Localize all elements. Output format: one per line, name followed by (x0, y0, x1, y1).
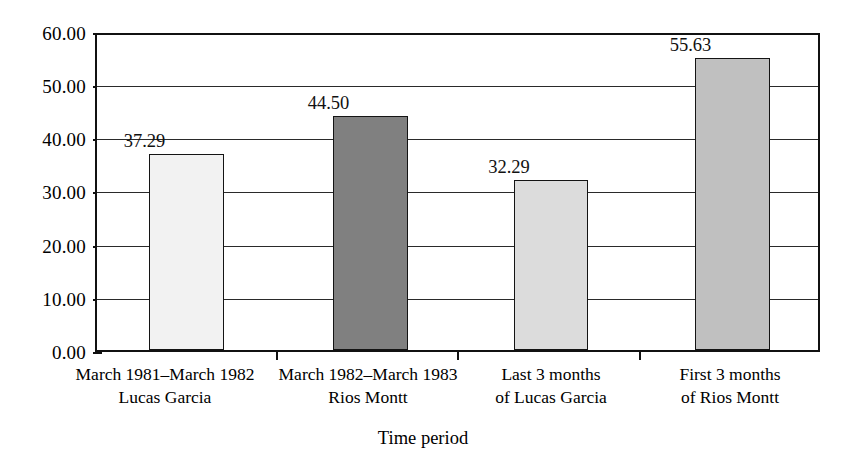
bar-value-label-2: 44.50 (291, 94, 366, 113)
x-category-label-3-line1: Last 3 months (501, 364, 600, 384)
y-tick-label-40: 40.00 (2, 130, 86, 149)
y-tick-label-30: 30.00 (2, 183, 86, 202)
x-category-label-3-line2: of Lucas Garcia (471, 386, 631, 409)
x-category-label-4: First 3 months of Rios Montt (650, 363, 810, 409)
x-category-label-1: March 1981–March 1982 Lucas Garcia (55, 363, 275, 409)
y-tick-label-0: 0.00 (2, 343, 86, 362)
y-tick-label-60: 60.00 (2, 24, 86, 43)
bar-last-3-months-of-lucas-garcia[interactable] (514, 180, 588, 350)
bar-value-label-1: 37.29 (107, 132, 182, 151)
x-category-label-3: Last 3 months of Lucas Garcia (471, 363, 631, 409)
x-category-label-2: March 1982–March 1983 Rios Montt (258, 363, 478, 409)
x-axis-title: Time period (0, 428, 846, 448)
bar-value-label-3: 32.29 (472, 158, 546, 177)
y-tick-mark-0 (93, 352, 102, 354)
x-tick-mark-1 (276, 352, 278, 360)
y-tick-label-10: 10.00 (2, 290, 86, 309)
y-tick-label-50: 50.00 (2, 77, 86, 96)
bar-march-1982-march-1983-rios-montt[interactable] (333, 116, 408, 350)
x-category-label-4-line1: First 3 months (679, 364, 780, 384)
x-category-label-1-line1: March 1981–March 1982 (76, 364, 255, 384)
x-category-label-4-line2: of Rios Montt (650, 386, 810, 409)
x-category-label-2-line2: Rios Montt (258, 386, 478, 409)
x-category-label-1-line2: Lucas Garcia (55, 386, 275, 409)
y-tick-label-20: 20.00 (2, 237, 86, 256)
bars-layer (97, 35, 818, 350)
x-tick-mark-2 (457, 352, 459, 360)
bar-value-label-4: 55.63 (653, 36, 728, 55)
x-tick-mark-3 (639, 352, 641, 360)
bar-first-3-months-of-rios-montt[interactable] (695, 58, 770, 350)
plot-area (95, 33, 820, 352)
bar-march-1981-march-1982-lucas-garcia[interactable] (149, 154, 224, 350)
x-category-label-2-line1: March 1982–March 1983 (279, 364, 458, 384)
bar-chart: 60.00 50.00 40.00 30.00 20.00 10.00 0.00… (0, 0, 846, 469)
